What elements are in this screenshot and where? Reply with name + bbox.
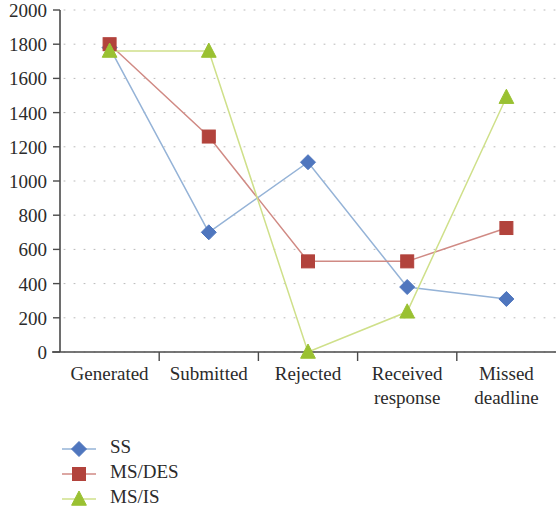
series-polyline — [110, 51, 507, 352]
legend-item-ss[interactable]: SS — [62, 436, 131, 457]
x-tick-label: Misseddeadline — [474, 363, 538, 408]
x-tick-label: Receivedresponse — [372, 363, 443, 408]
x-tick-label: Generated — [71, 363, 150, 384]
y-tick-label: 600 — [19, 239, 48, 260]
legend: SSMS/DESMS/IS — [62, 436, 179, 507]
legend-label: MS/DES — [110, 461, 179, 482]
data-point-marker — [499, 291, 514, 306]
data-point-marker — [500, 222, 513, 235]
x-tick-label: Rejected — [275, 363, 342, 384]
y-tick-label: 400 — [19, 274, 48, 295]
legend-item-ms-is[interactable]: MS/IS — [62, 486, 160, 507]
chart-canvas: 0200400600800100012001400160018002000Gen… — [0, 0, 560, 517]
y-tick-label: 0 — [38, 342, 48, 363]
line-chart: 0200400600800100012001400160018002000Gen… — [0, 0, 560, 517]
legend-label: SS — [110, 436, 131, 457]
legend-label: MS/IS — [110, 486, 160, 507]
y-tick-label: 1600 — [9, 68, 47, 89]
data-point-marker — [302, 255, 315, 268]
data-point-marker — [202, 130, 215, 143]
y-tick-label: 2000 — [9, 0, 47, 21]
series-markers-ms-is — [102, 43, 514, 358]
y-tick-label: 1000 — [9, 171, 47, 192]
legend-marker-diamond — [72, 442, 87, 457]
data-point-marker — [301, 155, 316, 170]
data-point-marker — [400, 304, 415, 318]
series-ms-is — [110, 51, 507, 352]
series-markers-ms-des — [103, 38, 513, 268]
y-tick-label: 800 — [19, 205, 48, 226]
data-point-marker — [301, 344, 316, 358]
y-tick-label: 200 — [19, 308, 48, 329]
data-point-marker — [401, 255, 414, 268]
x-tick-label: Submitted — [170, 363, 249, 384]
series-ms-des — [110, 44, 507, 261]
legend-item-ms-des[interactable]: MS/DES — [62, 461, 179, 482]
legend-marker-square — [73, 468, 86, 481]
y-tick-label: 1200 — [9, 137, 47, 158]
y-tick-label: 1800 — [9, 34, 47, 55]
legend-marker-triangle — [72, 491, 87, 505]
data-point-marker — [201, 225, 216, 240]
data-point-marker — [201, 43, 216, 57]
y-tick-label: 1400 — [9, 103, 47, 124]
data-point-marker — [400, 280, 415, 295]
series-polyline — [110, 44, 507, 261]
data-point-marker — [499, 89, 514, 103]
